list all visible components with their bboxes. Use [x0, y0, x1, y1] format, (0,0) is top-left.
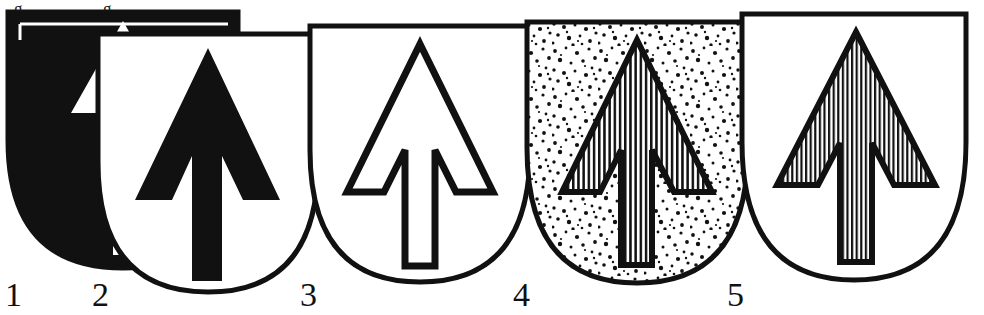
- shield-2: [90, 20, 330, 315]
- heraldic-plate: g g , 1 2 3 4 5: [0, 0, 984, 315]
- shield-5: [734, 4, 978, 315]
- shield-4: [519, 10, 759, 315]
- shields-illustration: [0, 0, 984, 315]
- shield-3: [302, 14, 542, 315]
